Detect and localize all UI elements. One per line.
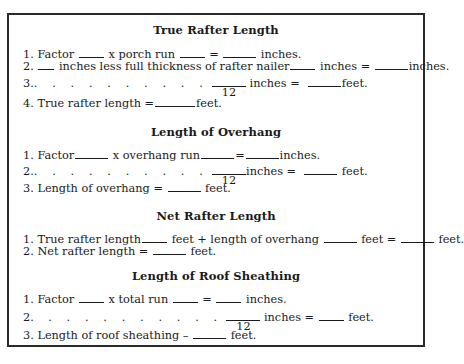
true-rafter-line-2: 2. inches less full thickness of rafter … — [23, 59, 449, 73]
true-rafter-line-4: 4. True rafter length =feet. — [23, 96, 222, 110]
line-text: feet = — [361, 233, 396, 246]
line-number: 2. — [23, 311, 34, 324]
true-rafter-line-3: 3.. . . . . . . . . . 12 inches = feet. — [23, 76, 368, 90]
line-text: feet. — [231, 329, 257, 342]
leader-dots: . . . . . . . . . . — [34, 77, 209, 90]
line-text: inches less full thickness of rafter nai… — [59, 60, 290, 73]
section-title-length-of-roof-sheathing: Length of Roof Sheathing — [9, 269, 423, 283]
overhang-line-1: 1. Factor x overhang run=inches. — [23, 148, 320, 162]
fraction: 12 — [226, 311, 260, 324]
line-text: inches. — [280, 149, 321, 162]
line-text: Net rafter length = — [37, 245, 148, 258]
net-rafter-line-2: 2. Net rafter length = feet. — [23, 244, 216, 258]
sheathing-line-2: 2. . . . . . . . . . . 12 inches = feet. — [23, 310, 374, 324]
line-text: Factor — [37, 293, 74, 306]
line-text: x overhang run — [113, 149, 200, 162]
fraction: 12 — [212, 165, 246, 178]
line-number: 2. — [23, 165, 34, 178]
overhang-run-blank[interactable] — [201, 148, 234, 159]
line-text: True rafter length = — [37, 97, 154, 110]
feet-blank[interactable] — [308, 76, 341, 87]
leader-dots: . . . . . . . . . . — [34, 165, 209, 178]
line-number: 1. — [23, 293, 34, 306]
net-rafter-length-blank[interactable] — [153, 244, 186, 255]
section-title-length-of-overhang: Length of Overhang — [9, 125, 423, 139]
fraction: 12 — [212, 77, 246, 90]
line-text: = — [235, 149, 244, 162]
result-inches-blank[interactable] — [223, 47, 256, 58]
factor-blank[interactable] — [79, 47, 104, 58]
line-number: 3. — [23, 182, 34, 195]
line-number: 2. — [23, 60, 34, 73]
sheathing-line-3: 3. Length of roof sheathing – feet. — [23, 328, 256, 342]
line-text: inches = — [320, 60, 370, 73]
line-text: inches. — [246, 293, 287, 306]
leader-dots: . . . . . . . . . . — [48, 311, 223, 324]
overhang-feet-blank[interactable] — [324, 232, 357, 243]
overhang-line-2: 2.. . . . . . . . . . 12 inches = feet. — [23, 164, 368, 178]
porch-run-blank[interactable] — [180, 47, 205, 58]
length-of-overhang-blank[interactable] — [168, 181, 201, 192]
line-text: Length of roof sheathing – — [37, 329, 188, 342]
line-number: 1. — [23, 149, 34, 162]
line-number: 3. — [23, 329, 34, 342]
line-text: Length of overhang = — [37, 182, 163, 195]
line-text: inches = — [246, 165, 296, 178]
factor-blank[interactable] — [79, 292, 104, 303]
line-text: inches. — [409, 60, 450, 73]
feet-blank[interactable] — [319, 310, 344, 321]
line-text: inches = — [250, 77, 300, 90]
result-feet-blank[interactable] — [401, 232, 434, 243]
result-inches-blank[interactable] — [246, 148, 279, 159]
nailer-thickness-blank[interactable] — [290, 59, 315, 70]
line-number: 2. — [23, 245, 34, 258]
line-text: feet. — [342, 77, 368, 90]
total-run-blank[interactable] — [173, 292, 198, 303]
section-title-net-rafter-length: Net Rafter Length — [9, 209, 423, 223]
inches-blank[interactable] — [38, 59, 54, 70]
line-text: Factor — [37, 149, 74, 162]
line-text: feet. — [205, 182, 231, 195]
result-inches-blank[interactable] — [375, 59, 408, 70]
line-text: = — [202, 293, 211, 306]
line-text: inches = — [264, 311, 314, 324]
line-text: x total run — [108, 293, 168, 306]
sheathing-line-1: 1. Factor x total run = inches. — [23, 292, 287, 306]
line-text: feet. — [190, 245, 216, 258]
line-text: feet. — [196, 97, 222, 110]
overhang-line-3: 3. Length of overhang = feet. — [23, 181, 231, 195]
result-inches-blank[interactable] — [216, 292, 241, 303]
feet-blank[interactable] — [304, 164, 337, 175]
line-number: 3. — [23, 77, 34, 90]
true-rafter-length-blank[interactable] — [155, 96, 195, 107]
line-text: feet. — [348, 311, 374, 324]
section-title-true-rafter-length: True Rafter Length — [9, 23, 423, 37]
roof-sheathing-length-blank[interactable] — [193, 328, 226, 339]
line-number: 4. — [23, 97, 34, 110]
worksheet-box: True Rafter Length 1. Factor x porch run… — [7, 13, 425, 347]
true-rafter-feet-blank[interactable] — [142, 232, 167, 243]
line-text: feet. — [342, 165, 368, 178]
factor-blank[interactable] — [75, 148, 108, 159]
line-text: feet. — [438, 233, 464, 246]
